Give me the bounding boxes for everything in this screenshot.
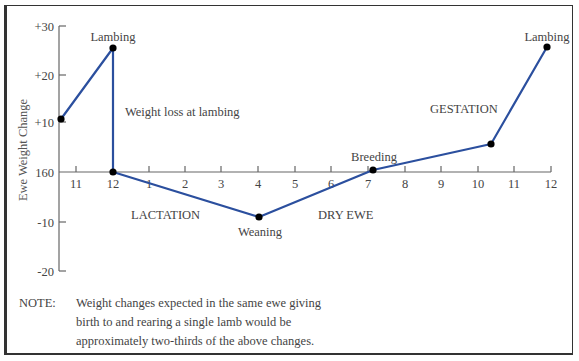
annotation-lambing-right: Lambing	[524, 30, 570, 44]
y-tick: -10	[37, 216, 54, 230]
x-tick: 12	[107, 177, 120, 191]
annotations: Lambing Weight loss at lambing LACTATION…	[90, 30, 570, 239]
x-tick: 11	[508, 177, 520, 191]
data-point-lambing	[109, 44, 116, 51]
annotation-weight-loss: Weight loss at lambing	[125, 105, 240, 119]
data-markers	[57, 43, 550, 220]
annotation-lambing-left: Lambing	[90, 30, 136, 44]
x-tick: 10	[472, 177, 485, 191]
x-tick: 11	[70, 177, 82, 191]
y-tick: 160	[35, 166, 54, 180]
annotation-breeding: Breeding	[351, 150, 398, 164]
note-line: Weight changes expected in the same ewe …	[76, 294, 336, 313]
annotation-gestation: GESTATION	[430, 102, 498, 116]
y-tick-labels: +30 +20 +10 160 -10 -20	[34, 20, 54, 279]
x-tick: 4	[255, 177, 262, 191]
x-tick: 8	[402, 177, 408, 191]
annotation-lactation: LACTATION	[131, 208, 200, 222]
data-point-breeding	[369, 166, 376, 173]
x-tick-labels: 11 12 1 2 3 4 5 6 7 8 9 10 11 12	[70, 177, 557, 191]
note-label: NOTE:	[19, 294, 56, 313]
x-tick: 5	[292, 177, 298, 191]
y-axis	[59, 26, 66, 271]
note-line: approximately two-thirds of the above ch…	[76, 332, 336, 351]
data-point-gestation	[487, 140, 494, 147]
data-point-weaning	[255, 213, 262, 220]
y-tick: +10	[34, 116, 54, 130]
x-tick: 3	[218, 177, 224, 191]
x-tick: 12	[545, 177, 558, 191]
data-point-lambing-end	[543, 43, 550, 50]
x-tick: 7	[365, 177, 371, 191]
y-tick: +30	[34, 20, 54, 34]
annotation-weaning: Weaning	[238, 225, 283, 239]
data-point-post-lambing	[109, 168, 116, 175]
weight-change-line	[61, 47, 547, 217]
y-tick: +20	[34, 69, 54, 83]
note-body: Weight changes expected in the same ewe …	[76, 294, 336, 351]
note-line: birth to and rearing a single lamb would…	[76, 313, 336, 332]
x-tick: 9	[438, 177, 444, 191]
annotation-dry-ewe: DRY EWE	[318, 208, 374, 222]
x-axis	[59, 166, 551, 172]
data-point-start	[57, 115, 64, 122]
y-axis-title: Ewe Weight Change	[16, 98, 30, 201]
y-tick: -20	[37, 265, 54, 279]
x-tick: 2	[182, 177, 188, 191]
